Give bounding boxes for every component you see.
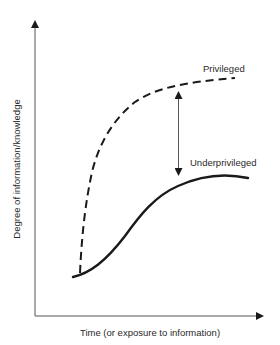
y-axis-label: Degree of information/knowledge <box>11 99 22 238</box>
knowledge-gap-diagram: Privileged Underprivileged Time (or expo… <box>0 0 280 345</box>
underprivileged-label: Underprivileged <box>190 157 257 168</box>
privileged-label: Privileged <box>203 63 245 74</box>
underprivileged-curve <box>73 176 248 277</box>
x-axis-label: Time (or exposure to information) <box>80 327 220 338</box>
